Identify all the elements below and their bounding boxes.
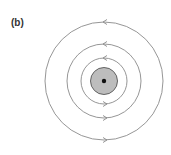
field-diagram — [0, 0, 171, 155]
conductor — [91, 68, 118, 95]
current-out-of-page-dot-icon — [102, 79, 106, 83]
